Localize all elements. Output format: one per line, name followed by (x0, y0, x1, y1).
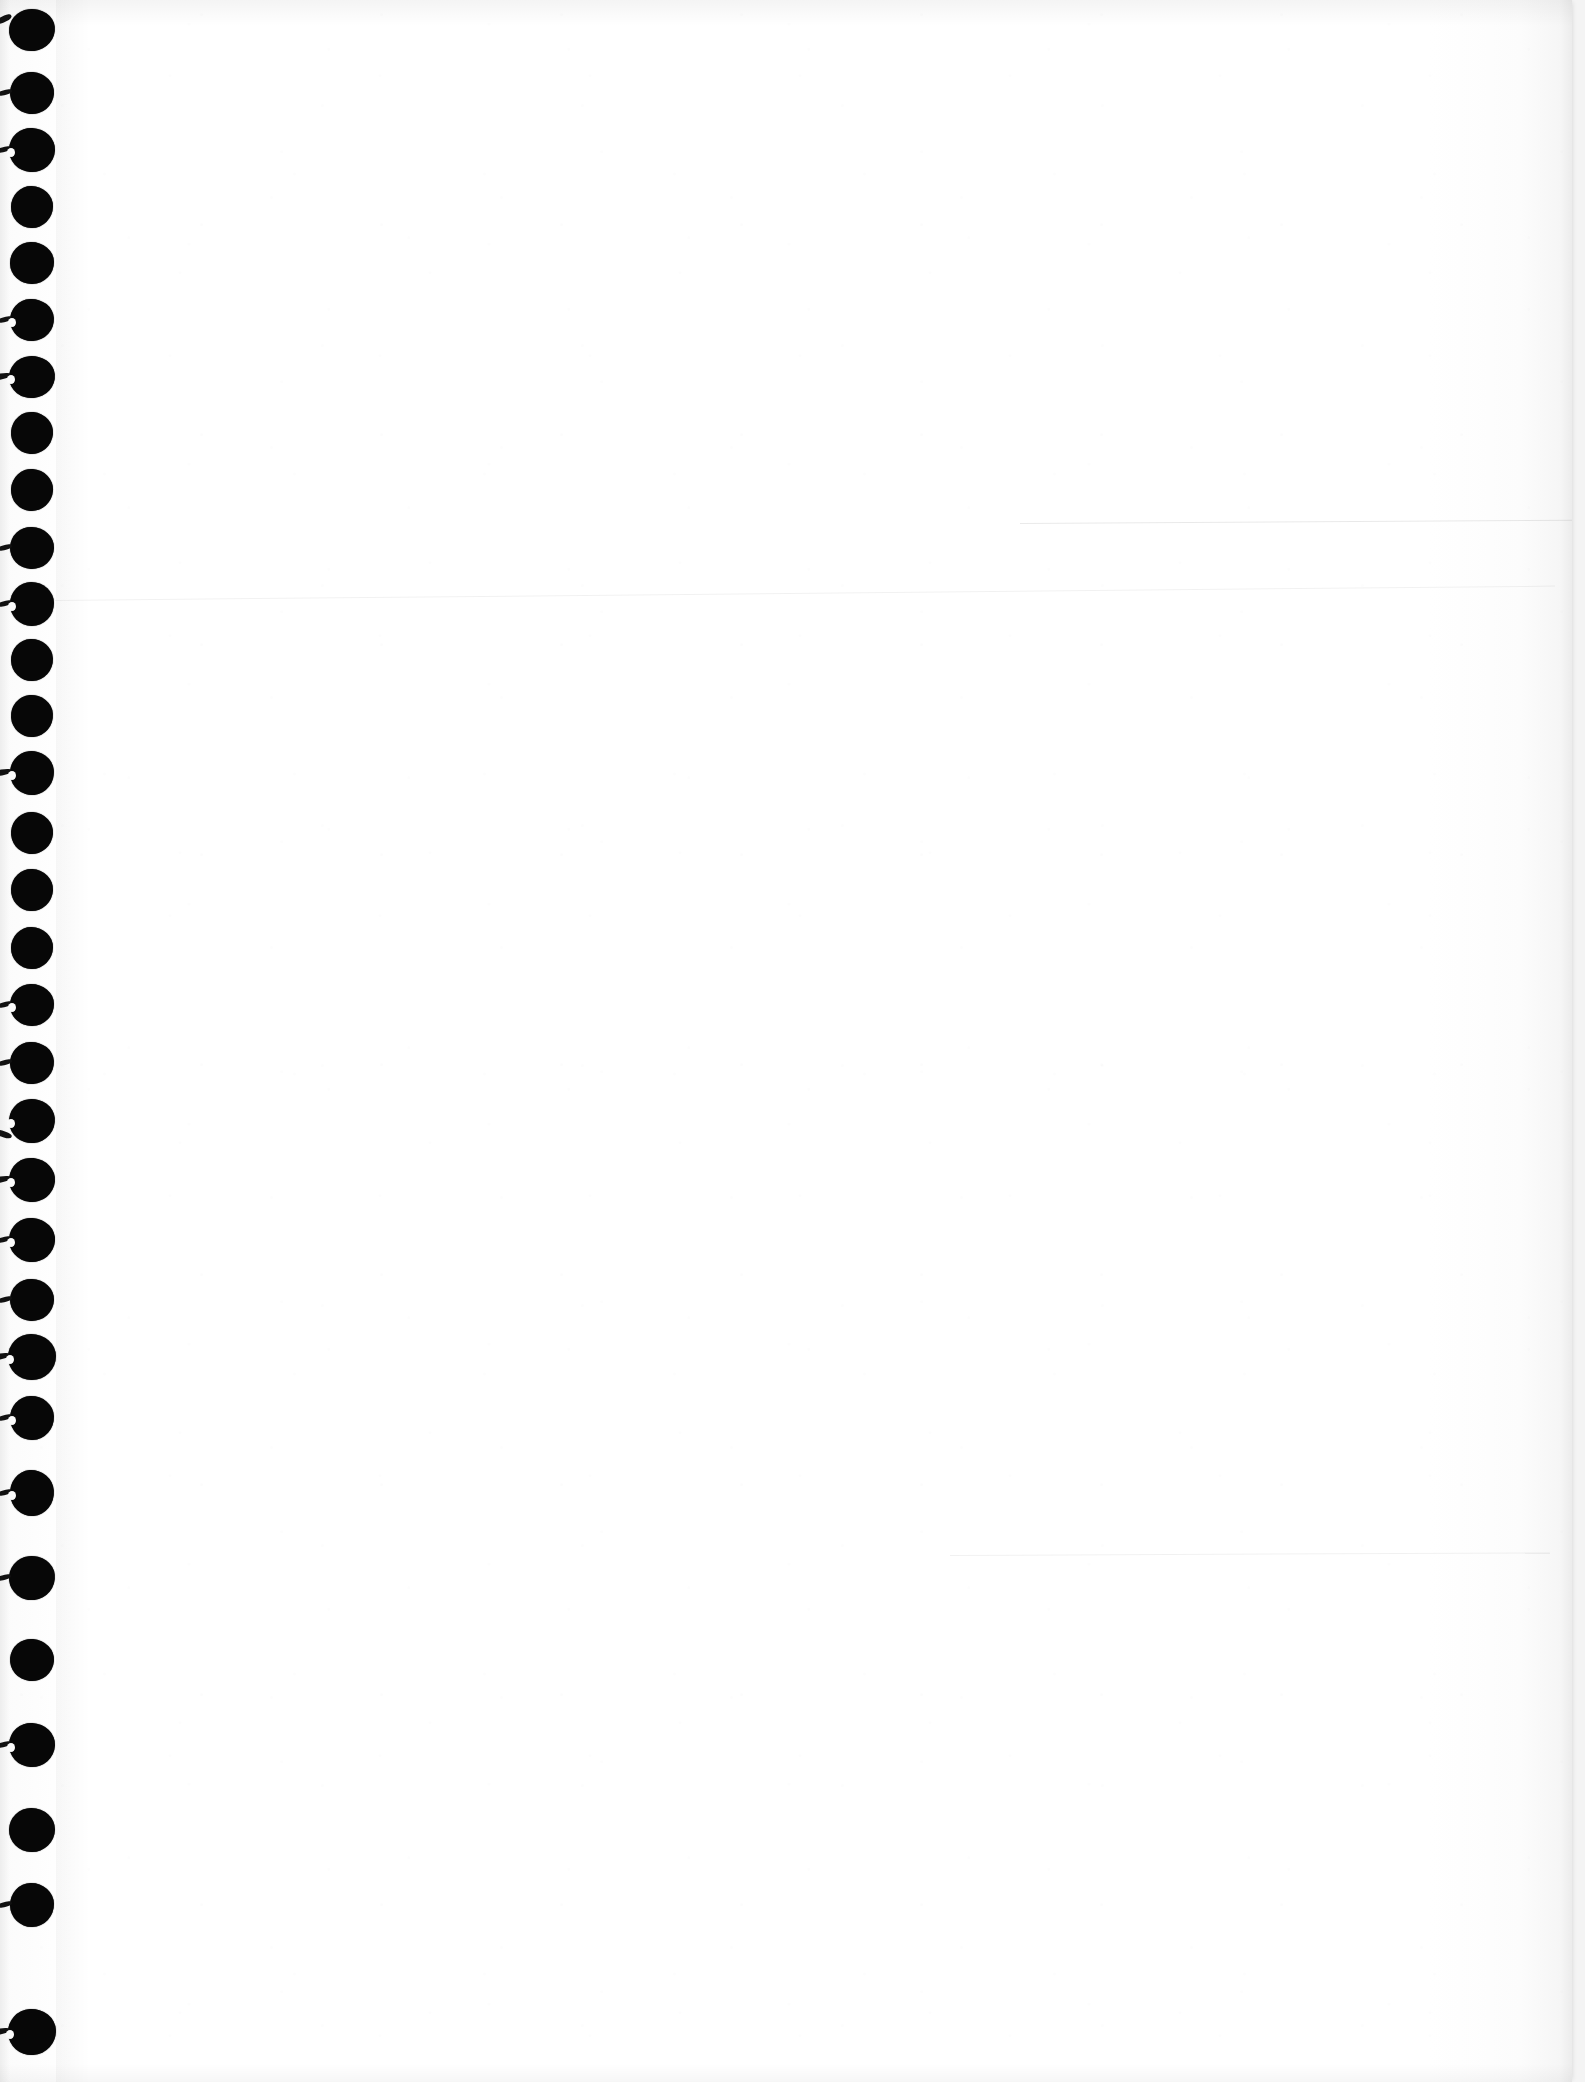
torn-paper-fleck (7, 148, 15, 157)
punch-hole (7, 1156, 57, 1205)
punch-hole (10, 638, 53, 681)
punch-hole (10, 582, 54, 626)
punch-hole (9, 810, 55, 856)
torn-paper-tab (0, 1000, 12, 1008)
torn-paper-fleck (7, 375, 15, 384)
punch-hole (11, 186, 54, 229)
torn-paper-fleck (6, 2030, 14, 2039)
torn-paper-fleck (7, 1238, 15, 1247)
punch-hole (11, 927, 54, 970)
torn-paper-tab (0, 1352, 10, 1362)
torn-paper-tab (0, 1413, 12, 1421)
torn-paper-fleck (7, 1119, 15, 1128)
punch-hole (9, 410, 55, 456)
scanned-page-canvas: Blank scanned notebook page No handwriti… (0, 0, 1585, 2082)
punch-hole (8, 70, 55, 116)
punch-hole (9, 1808, 56, 1853)
torn-paper-fleck (8, 1003, 16, 1012)
punched-hole-strip (0, 0, 90, 2082)
torn-paper-tab (0, 145, 11, 153)
torn-paper-fleck (8, 602, 16, 611)
punch-hole (9, 298, 55, 342)
torn-paper-tab (0, 2027, 10, 2037)
torn-paper-tab (0, 1175, 11, 1185)
punch-hole (10, 1883, 55, 1928)
torn-paper-fleck (8, 771, 16, 780)
torn-paper-fleck (8, 1491, 16, 1500)
torn-paper-tab (0, 1573, 11, 1581)
torn-paper-fleck (6, 1355, 14, 1364)
paper-sheet (0, 0, 1572, 2082)
punch-hole (8, 1469, 55, 1518)
torn-paper-tab (0, 1128, 12, 1139)
punch-hole (10, 242, 55, 285)
torn-paper-tab (0, 315, 12, 323)
torn-paper-fleck (8, 1416, 16, 1425)
punch-hole (9, 526, 54, 570)
punch-hole (8, 1334, 56, 1380)
torn-paper-tab (0, 1295, 12, 1303)
torn-paper-tab (0, 1058, 12, 1066)
punch-hole (10, 468, 55, 513)
torn-left-lip (0, 0, 10, 2082)
left-margin-shading (56, 0, 90, 2082)
torn-paper-fleck (8, 318, 16, 327)
torn-paper-tab (0, 1235, 11, 1243)
punch-hole (10, 694, 55, 739)
torn-paper-tab (0, 768, 12, 778)
punch-hole (8, 1637, 55, 1683)
torn-paper-tab (0, 543, 12, 551)
torn-paper-fleck (7, 1178, 15, 1187)
punch-hole (7, 1097, 57, 1145)
punch-hole (7, 2008, 57, 2056)
torn-paper-tab (0, 13, 13, 25)
punch-hole (9, 1395, 55, 1441)
torn-paper-tab (0, 1740, 11, 1748)
torn-paper-tab (0, 599, 12, 607)
punch-hole (9, 1278, 54, 1322)
punch-hole (7, 7, 57, 54)
punch-hole (8, 1722, 56, 1768)
writing-area (90, 30, 1550, 2050)
torn-paper-fleck (7, 1743, 15, 1752)
torn-paper-tab (0, 372, 11, 382)
torn-paper-tab (0, 1900, 12, 1908)
torn-paper-tab (0, 88, 12, 96)
top-edge-shadow (0, 0, 1572, 26)
punch-hole (7, 354, 56, 400)
punch-hole (8, 749, 56, 797)
punch-hole (7, 1554, 57, 1603)
punch-hole (9, 1041, 55, 1085)
punch-hole (10, 868, 54, 912)
punch-hole (10, 984, 55, 1027)
punch-hole (8, 127, 56, 173)
punch-hole (8, 1216, 57, 1263)
torn-paper-tab (0, 1488, 12, 1496)
bottom-edge-shadow (0, 2064, 1572, 2082)
